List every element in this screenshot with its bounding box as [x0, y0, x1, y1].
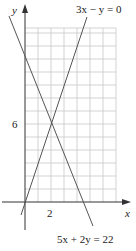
line2-label: 5x + 2y = 22 [57, 234, 113, 245]
grid [25, 28, 116, 202]
graph-canvas [0, 0, 136, 251]
line1-label: 3x − y = 0 [76, 4, 121, 15]
x-axis-arrow-icon [122, 199, 131, 205]
y-axis-label: y [12, 5, 17, 16]
x-axis-label: x [125, 208, 130, 219]
y-axis-arrow-icon [22, 4, 28, 13]
x-tick-2: 2 [47, 208, 53, 219]
y-tick-6: 6 [12, 119, 18, 130]
axes [2, 4, 131, 230]
